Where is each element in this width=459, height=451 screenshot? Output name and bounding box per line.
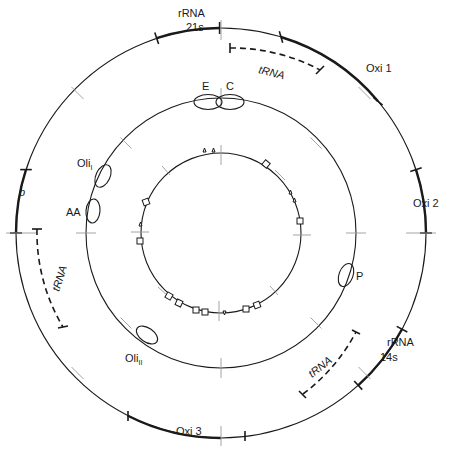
label-rrna21s-size: 21s bbox=[186, 21, 204, 33]
label-oxi2: Oxi 2 bbox=[413, 197, 439, 209]
inner-marker-square bbox=[262, 160, 270, 168]
inner-marker-square bbox=[137, 238, 143, 244]
label-rrna21s: rRNA bbox=[178, 7, 206, 19]
locus-e-ellipse bbox=[194, 95, 222, 110]
label-locus-c: C bbox=[226, 80, 234, 92]
inner-marker-square bbox=[202, 309, 208, 315]
label-trna-bottom: tRNA bbox=[306, 354, 334, 380]
inner-marker-square bbox=[253, 301, 261, 309]
label-rrna14s: rRNA bbox=[387, 336, 415, 348]
label-rrna14s-size: 14s bbox=[380, 351, 398, 363]
locus-oli2-ellipse bbox=[133, 322, 161, 347]
middle-ring bbox=[86, 98, 356, 368]
genome-map-diagram: rRNA 21s tRNA Oxi 1 Oxi 2 rRNA 14s tRNA … bbox=[0, 0, 459, 451]
inner-ring bbox=[141, 153, 301, 313]
gene-b-segment bbox=[16, 233, 26, 296]
label-locus-oli1: OliI bbox=[77, 157, 92, 171]
label-locus-p: P bbox=[356, 270, 363, 282]
inner-marker-square bbox=[193, 307, 199, 313]
gene-oxi3-segment bbox=[128, 416, 221, 438]
inner-marker-square bbox=[297, 218, 303, 224]
inner-marker-square bbox=[175, 299, 183, 307]
inner-marker-triangle bbox=[212, 148, 215, 152]
locus-c-ellipse bbox=[216, 95, 244, 110]
inner-marker-square bbox=[142, 198, 150, 206]
inner-marker-square bbox=[165, 292, 173, 300]
label-trna-left: tRNA bbox=[49, 264, 69, 293]
label-b: b bbox=[19, 186, 25, 198]
label-locus-e: E bbox=[202, 80, 209, 92]
inner-marker-triangle bbox=[223, 311, 226, 315]
label-oxi1: Oxi 1 bbox=[366, 62, 392, 74]
label-oxi3: Oxi 3 bbox=[176, 425, 202, 437]
inner-marker-square bbox=[243, 306, 249, 312]
inner-marker-triangle bbox=[203, 148, 206, 152]
label-locus-oli2: OliII bbox=[125, 352, 142, 366]
label-locus-aa: AA bbox=[66, 206, 81, 218]
gene-b-segment-thick bbox=[16, 170, 26, 233]
label-trna-top: tRNA bbox=[258, 63, 286, 81]
